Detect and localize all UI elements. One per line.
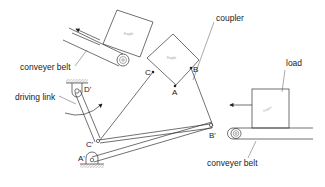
- point-c-prime: C': [86, 140, 94, 149]
- label-load: load: [286, 58, 302, 68]
- coupler-link-b-line: [191, 68, 213, 126]
- bottom-conveyor-belt: [228, 128, 314, 139]
- label-bottom-conveyer-belt: conveyer belt: [207, 158, 258, 168]
- svg-text:Fragile: Fragile: [124, 32, 134, 36]
- coupler-box: Fragile: [147, 34, 199, 87]
- c-path-line: [100, 72, 153, 140]
- svg-text:Fragile: Fragile: [167, 56, 177, 60]
- top-belt-leader: [75, 50, 87, 66]
- driving-link-leader: [59, 96, 76, 104]
- driving-link: [75, 90, 100, 143]
- load-box: Fragile: [252, 89, 289, 128]
- point-d-prime: D': [84, 85, 92, 94]
- label-coupler: coupler: [216, 13, 244, 23]
- follower-link: [92, 122, 213, 162]
- bottom-belt-leader: [248, 141, 256, 158]
- point-b-prime: B': [209, 131, 216, 140]
- point-b: B: [193, 65, 198, 74]
- coupler-c-b-line: [99, 124, 210, 140]
- point-c: C: [145, 68, 151, 77]
- svg-text:Fragile: Fragile: [262, 105, 272, 113]
- linkage-diagram: Fragile Fragile: [0, 0, 325, 187]
- label-top-conveyer-belt: conveyer belt: [20, 62, 71, 72]
- label-driving-link: driving link: [15, 92, 56, 102]
- point-a: A: [172, 88, 178, 97]
- point-a-prime: A': [78, 154, 85, 163]
- top-conveyor-box: Fragile: [103, 10, 153, 57]
- joint-a-icon: [174, 85, 177, 88]
- top-conveyor-belt: [63, 28, 129, 66]
- belt-direction-arrow-icon: [76, 29, 100, 40]
